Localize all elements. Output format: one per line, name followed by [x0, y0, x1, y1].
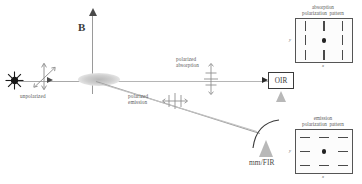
- pattern-tick: [323, 50, 324, 60]
- emission-pattern-caption-line2: polarization pattern: [288, 122, 358, 128]
- absorption-pattern-y-axis-label: y: [289, 38, 291, 43]
- pattern-tick: [342, 50, 343, 60]
- pattern-tick: [338, 137, 348, 138]
- oir-detector-box[interactable]: OIR: [268, 72, 294, 89]
- polarized-emission-label-line2: emission: [128, 100, 147, 105]
- pattern-center-dot: [322, 38, 326, 42]
- mmfir-horn-icon: [259, 140, 273, 157]
- unpolarized-symbol: [26, 60, 62, 93]
- absorption-pattern-grid: [296, 19, 352, 62]
- oir-horn-icon: [276, 91, 286, 102]
- pattern-tick: [319, 165, 329, 166]
- pattern-tick: [323, 21, 324, 31]
- pattern-tick: [342, 35, 343, 45]
- pattern-tick: [338, 151, 348, 152]
- oir-detector-label: OIR: [275, 77, 287, 85]
- scattering-region: [78, 73, 120, 86]
- pattern-center-dot: [322, 149, 326, 153]
- figure-canvas: B: [0, 0, 362, 184]
- magnetic-field-arrowhead: [89, 8, 97, 16]
- emission-pattern-grid: [296, 130, 352, 173]
- mmfir-detector-label: mm/FIR: [249, 159, 275, 167]
- pattern-tick: [300, 137, 310, 138]
- pattern-tick: [342, 21, 343, 31]
- absorption-pattern-caption-line2: polarization pattern: [288, 11, 358, 17]
- unpolarized-label: unpolarized: [20, 94, 46, 99]
- pattern-tick: [338, 165, 348, 166]
- emission-pattern-x-axis-label: x: [322, 175, 324, 180]
- absorption-pattern-x-axis-label: x: [322, 64, 324, 69]
- polarized-emission-symbol: [160, 90, 190, 112]
- absorption-pattern-panel: [295, 18, 353, 63]
- emission-pattern-panel: [295, 129, 353, 174]
- polarized-absorption-symbol: [200, 62, 222, 96]
- pattern-tick: [300, 165, 310, 166]
- polarized-absorption-label-line2: absorption: [176, 63, 199, 68]
- pattern-tick: [305, 50, 306, 60]
- pattern-tick: [319, 137, 329, 138]
- magnetic-field-label: B: [78, 22, 85, 34]
- emission-pattern-y-axis-label: y: [289, 149, 291, 154]
- pattern-tick: [305, 35, 306, 45]
- star-source-icon: [4, 70, 25, 91]
- pattern-tick: [300, 151, 310, 152]
- pattern-tick: [305, 21, 306, 31]
